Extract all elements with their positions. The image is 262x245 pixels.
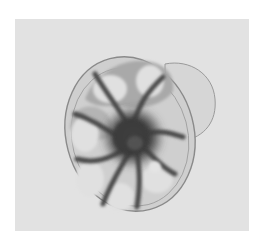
- foraminifer-specimen: [15, 19, 249, 231]
- figure-caption: [15, 240, 249, 245]
- micrograph-photo: [15, 19, 249, 231]
